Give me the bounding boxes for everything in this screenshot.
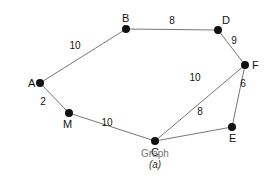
edge-weight-f-c: 10	[189, 72, 201, 83]
edge-weight-b-d: 8	[169, 15, 175, 26]
edge-weight-m-c: 10	[101, 117, 113, 128]
graph-subcaption: (a)	[149, 159, 161, 170]
node-a	[36, 79, 44, 87]
node-label-m: M	[63, 118, 72, 130]
edge-c-e	[155, 127, 232, 141]
edge-weight-f-e: 6	[240, 78, 246, 89]
edge-b-d	[126, 29, 218, 30]
graph-caption: Graph	[141, 148, 169, 159]
node-c	[151, 137, 159, 145]
node-d	[214, 26, 222, 34]
node-m	[65, 109, 73, 117]
node-label-f: F	[252, 59, 259, 71]
edge-weight-d-f: 9	[231, 35, 237, 46]
node-label-d: D	[222, 14, 230, 26]
edge-weight-c-e: 8	[197, 106, 203, 117]
edge-a-b	[40, 29, 126, 83]
edge-weight-a-b: 10	[69, 40, 81, 51]
node-label-a: A	[28, 77, 36, 89]
node-b	[122, 25, 130, 33]
node-label-e: E	[229, 132, 236, 144]
node-label-b: B	[122, 12, 129, 24]
node-e	[228, 123, 236, 131]
edge-weight-a-m: 2	[40, 96, 46, 107]
node-f	[241, 61, 249, 69]
node-labels: ABDFECM	[28, 12, 259, 158]
graph-diagram: 10891068210 ABDFECM Graph (a)	[0, 0, 270, 189]
